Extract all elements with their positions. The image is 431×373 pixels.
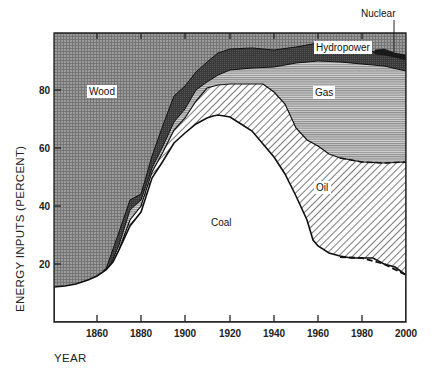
x-tick-1960: 1960 [307,328,330,339]
x-tick-1920: 1920 [219,328,242,339]
y-tick-60: 60 [39,143,51,154]
y-tick-20: 20 [39,259,51,270]
svg-text:Wood: Wood [89,86,115,97]
plot-area [54,33,406,322]
svg-text:Oil: Oil [316,182,328,193]
x-tick-1860: 1860 [86,328,109,339]
y-tick-40: 40 [39,201,51,212]
label-oil: Oil [314,181,331,194]
y-tick-labels: 80 60 40 20 [39,85,51,270]
x-tick-1880: 1880 [130,328,153,339]
x-tick-labels: 1860 1880 1900 1920 1940 1960 1980 2000 [86,328,418,339]
x-tick-1900: 1900 [174,328,197,339]
x-axis-title: YEAR [54,352,87,364]
x-tick-1940: 1940 [263,328,286,339]
energy-inputs-chart: 80 60 40 20 1860 1880 1900 1920 1940 196… [0,0,431,373]
label-nuclear: Nuclear [361,8,396,19]
y-tick-80: 80 [39,85,51,96]
y-axis-title: ENERGY INPUTS (PERCENT) [14,146,26,312]
svg-text:Gas: Gas [315,87,333,98]
x-tick-2000: 2000 [395,328,418,339]
svg-text:Hydropower: Hydropower [316,42,371,53]
label-wood: Wood [87,85,117,98]
label-gas: Gas [313,86,335,99]
x-tick-1980: 1980 [351,328,374,339]
label-hydropower: Hydropower [314,41,372,54]
label-coal: Coal [211,217,232,228]
